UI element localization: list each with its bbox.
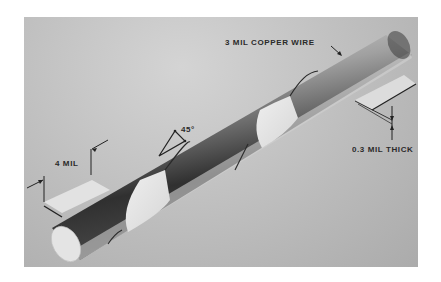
angle-label: 45°	[181, 125, 195, 134]
width-label: 4 MIL	[55, 159, 78, 168]
wire-diagram	[0, 0, 441, 282]
wire-label: 3 MIL COPPER WIRE	[225, 38, 315, 47]
thickness-label: 0.3 MIL THICK	[352, 145, 418, 154]
wire-leader-arrow	[331, 46, 342, 56]
